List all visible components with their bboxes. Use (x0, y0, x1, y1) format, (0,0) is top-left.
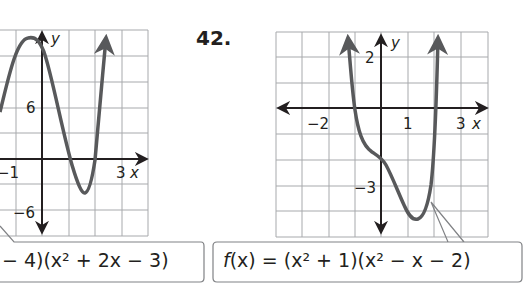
right-xtick-neg2: −2 (307, 115, 329, 133)
right-ytick-2: 2 (365, 49, 375, 67)
right-ytick-neg3: −3 (354, 179, 376, 197)
left-ytick-6: 6 (26, 99, 36, 117)
left-ytick-neg6: −6 (13, 204, 35, 222)
problem-number: 42. (196, 26, 231, 50)
right-equation-f: f (223, 249, 230, 271)
right-xtick-1: 1 (403, 115, 413, 133)
right-y-label: y (390, 34, 401, 52)
left-xtick-neg1: −1 (0, 164, 19, 182)
left-graph: y x 3 −1 6 −6 (0, 30, 148, 236)
right-graph: y 2 −2 1 3 x −3 (276, 32, 488, 237)
left-y-label: y (50, 30, 61, 48)
right-x-label: x (471, 115, 481, 133)
right-xtick-3: 3 (456, 115, 466, 133)
left-xtick-3: 3 (116, 164, 126, 182)
right-equation-body: (x) = (x² + 1)(x² − x − 2) (230, 249, 471, 271)
left-equation: − 4)(x² + 2x − 3) (2, 249, 169, 271)
left-x-label: x (129, 164, 139, 182)
right-equation: f(x) = (x² + 1)(x² − x − 2) (223, 249, 471, 271)
